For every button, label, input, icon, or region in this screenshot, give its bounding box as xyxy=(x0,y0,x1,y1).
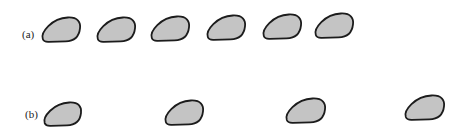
blob-shape-a-6 xyxy=(315,13,353,37)
row-a-blobs xyxy=(42,13,353,41)
blob-shape-b-2 xyxy=(165,100,203,124)
blob-shape-b-4 xyxy=(405,95,444,119)
blob-shape-a-2 xyxy=(97,17,135,41)
blob-shape-a-1 xyxy=(42,17,80,41)
blob-sequence-diagram xyxy=(0,0,466,129)
blob-shape-b-1 xyxy=(44,102,81,125)
blob-shape-a-4 xyxy=(207,15,245,39)
row-b-blobs xyxy=(44,95,444,125)
blob-shape-b-3 xyxy=(286,98,325,122)
blob-shape-a-3 xyxy=(151,16,189,40)
blob-shape-a-5 xyxy=(263,14,301,38)
